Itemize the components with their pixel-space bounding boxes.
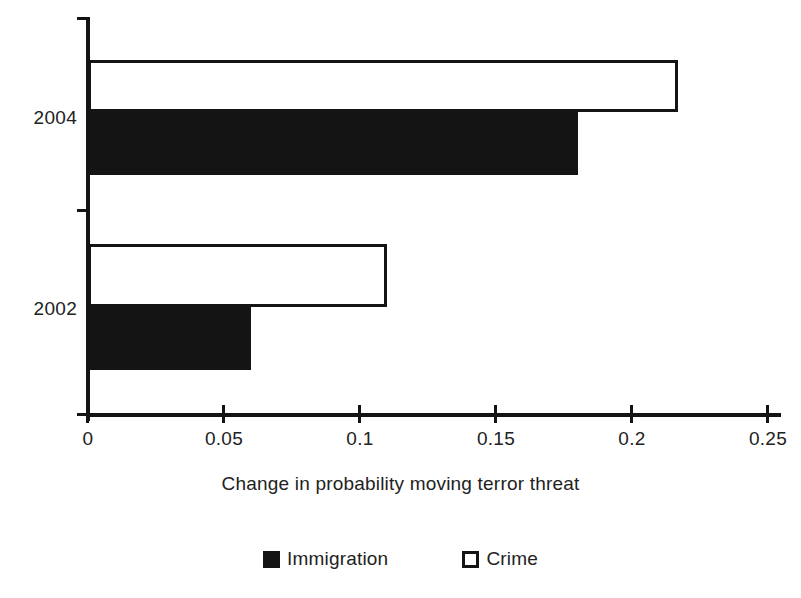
x-tick-label-0-25: 0.25 xyxy=(749,428,787,450)
x-axis-tick-0-25 xyxy=(766,405,769,423)
y-category-label-2002: 2002 xyxy=(5,298,77,320)
bar-crime-2002 xyxy=(88,244,387,307)
x-axis-tick-0 xyxy=(86,405,89,423)
filled-square-icon xyxy=(263,551,280,568)
x-tick-label-0-05: 0.05 xyxy=(205,428,243,450)
x-axis-title: Change in probability moving terror thre… xyxy=(0,473,801,495)
legend-label-crime: Crime xyxy=(486,548,538,570)
x-axis-tick-0-1 xyxy=(358,405,361,423)
legend-item-immigration: Immigration xyxy=(263,548,388,570)
bar-chart: 2004 2002 0 0.05 0.1 0.15 0.2 0.25 Chang… xyxy=(0,0,801,598)
bar-immigration-2004 xyxy=(88,112,578,175)
x-tick-label-0-2: 0.2 xyxy=(618,428,645,450)
x-tick-label-0-15: 0.15 xyxy=(477,428,515,450)
chart-legend: Immigration Crime xyxy=(0,548,801,570)
x-axis-tick-0-15 xyxy=(494,405,497,423)
x-tick-label-0-1: 0.1 xyxy=(346,428,373,450)
x-axis-tick-0-2 xyxy=(630,405,633,423)
bar-crime-2004 xyxy=(88,60,678,112)
x-axis-tick-0-05 xyxy=(222,405,225,423)
y-axis-tick-top xyxy=(77,17,89,20)
x-tick-label-0: 0 xyxy=(83,428,94,450)
bar-immigration-2002 xyxy=(88,307,251,370)
y-category-label-2004: 2004 xyxy=(5,107,77,129)
x-axis-line xyxy=(86,413,781,417)
legend-label-immigration: Immigration xyxy=(287,548,388,570)
y-axis-tick-middle xyxy=(77,209,89,212)
legend-item-crime: Crime xyxy=(462,548,538,570)
hollow-square-icon xyxy=(462,551,479,568)
